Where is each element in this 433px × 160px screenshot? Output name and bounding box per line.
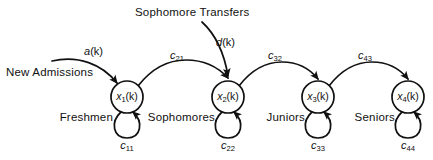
diagram-canvas: Sophomore Transfers d(k) New Admissions …	[0, 0, 433, 160]
state-node-x1-arg: (k)	[126, 90, 138, 102]
self-loop-arrow-c11	[114, 112, 139, 138]
sophomore-transfers-label: Sophomore Transfers	[135, 6, 249, 18]
self-loop-label-c22: c22	[221, 139, 235, 153]
self-loop-arrow-c44	[395, 112, 420, 138]
transition-label-c32: c32	[268, 49, 282, 63]
self-loop-label-c11: c11	[120, 139, 133, 153]
state-node-x2-label: x2(k)	[216, 90, 239, 104]
state-node-x4-arg: (k)	[407, 90, 419, 102]
input-label-d: d(k)	[216, 36, 235, 48]
state-node-x4-label: x4(k)	[396, 90, 419, 104]
self-loop-label-c33: c33	[311, 139, 325, 153]
transition-label-c21: c21	[170, 49, 184, 63]
input-label-a-arg: (k)	[90, 45, 103, 57]
state-node-x1-label: x1(k)	[115, 90, 138, 104]
state-node-x3-label: x3(k)	[306, 90, 329, 104]
self-loop-label-c33-sub: 33	[317, 144, 325, 153]
self-loop-label-c44: c44	[401, 139, 415, 153]
state-node-x2-arg: (k)	[227, 90, 239, 102]
self-loop-label-c11-sub: 11	[126, 144, 134, 153]
self-loop-label-c22-sub: 22	[227, 144, 235, 153]
self-loop-arrow-c22	[215, 112, 240, 138]
input-label-d-arg: (k)	[222, 36, 235, 48]
class-label-juniors: Juniors	[267, 111, 306, 123]
state-node-x3-arg: (k)	[317, 90, 329, 102]
class-label-freshmen: Freshmen	[60, 111, 113, 123]
transition-arrow-c43	[329, 62, 408, 86]
transition-label-c21-sub: 21	[176, 54, 184, 63]
self-loop-label-c44-sub: 44	[407, 144, 415, 153]
class-label-sophomores: Sophomores	[148, 111, 215, 123]
transition-arrow-c32	[239, 62, 318, 86]
input-label-a: a(k)	[84, 45, 103, 57]
new-admissions-label: New Admissions	[6, 66, 93, 78]
state-transition-diagram: Sophomore Transfers d(k) New Admissions …	[0, 0, 433, 160]
class-label-seniors: Seniors	[355, 111, 395, 123]
transition-label-c43: c43	[358, 49, 372, 63]
transition-label-c32-sub: 32	[274, 54, 282, 63]
self-loop-arrow-c33	[305, 112, 330, 138]
transition-label-c43-sub: 43	[364, 54, 372, 63]
transition-arrow-c21	[138, 60, 228, 86]
